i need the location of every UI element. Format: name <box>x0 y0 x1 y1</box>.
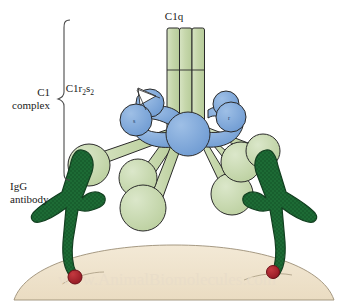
c1q-globular-head-3 <box>120 185 166 231</box>
c1q-label: C1q <box>165 10 184 22</box>
c1-complex-label-line1: C1 <box>37 86 50 98</box>
igg-antibody-label-line2: antibody <box>10 193 49 205</box>
complement-c1-complex-diagram: www.AnimalBiomolecules.com <box>0 0 348 304</box>
c1r2s2-sphere-s <box>120 104 152 136</box>
c1r2s2-label-c1r: C1r <box>66 82 83 94</box>
c1r2s2-sphere-center <box>166 112 210 156</box>
antigen-dot-left <box>68 270 82 284</box>
igg-antibody-label-line1: IgG <box>10 180 27 192</box>
watermark-text: www.AnimalBiomolecules.com <box>58 270 276 289</box>
c1r2s2-label-sub2: 2 <box>90 88 94 97</box>
c1-complex-label-line2: complex <box>12 99 50 111</box>
antigen-dot-right <box>267 266 280 279</box>
protease-r-label: r <box>228 115 230 121</box>
c1r2s2-sphere-r <box>216 102 246 132</box>
